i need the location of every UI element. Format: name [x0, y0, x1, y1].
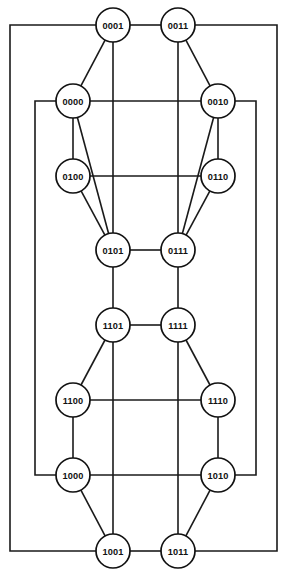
graph-node-0100[interactable]: 0100 — [56, 159, 90, 193]
graph-node-1001[interactable]: 1001 — [96, 534, 130, 568]
graph-node-1000[interactable]: 1000 — [56, 458, 90, 492]
wrap-edge-0000-1000 — [35, 101, 56, 475]
node-label-0101: 0101 — [103, 246, 124, 256]
node-label-0111: 0111 — [168, 246, 188, 256]
graph-node-0110[interactable]: 0110 — [201, 159, 235, 193]
graph-node-0101[interactable]: 0101 — [96, 233, 130, 267]
node-label-1100: 1100 — [63, 396, 83, 406]
node-label-0011: 0011 — [168, 21, 188, 31]
node-label-1011: 1011 — [168, 547, 188, 557]
node-label-0100: 0100 — [63, 172, 84, 182]
hypercube-diagram: 0001001100000010010001100101011111011111… — [0, 0, 287, 575]
edge-1010-1011 — [186, 490, 210, 536]
node-label-1000: 1000 — [63, 471, 84, 481]
node-label-1010: 1010 — [208, 471, 229, 481]
edge-1111-1110 — [186, 340, 210, 385]
wrap-edges-group — [10, 25, 277, 551]
node-label-1101: 1101 — [103, 321, 123, 331]
node-label-1110: 1110 — [208, 396, 228, 406]
edge-1101-1100 — [81, 340, 105, 385]
graph-node-0001[interactable]: 0001 — [96, 8, 130, 42]
graph-node-1010[interactable]: 1010 — [201, 458, 235, 492]
graph-node-0010[interactable]: 0010 — [201, 84, 235, 118]
graph-node-1111[interactable]: 1111 — [161, 308, 195, 342]
node-label-0000: 0000 — [63, 97, 84, 107]
graph-node-0000[interactable]: 0000 — [56, 84, 90, 118]
edge-0100-0101 — [81, 191, 105, 235]
graph-node-1100[interactable]: 1100 — [56, 383, 90, 417]
node-label-0001: 0001 — [103, 21, 124, 31]
node-label-0010: 0010 — [208, 97, 229, 107]
node-label-0110: 0110 — [208, 172, 228, 182]
node-label-1001: 1001 — [103, 547, 124, 557]
edge-0011-0010 — [186, 40, 210, 86]
edge-0001-0000 — [81, 40, 105, 86]
wrap-edge-0010-1010 — [235, 101, 256, 475]
edges-group — [73, 25, 218, 551]
graph-node-1110[interactable]: 1110 — [201, 383, 235, 417]
graph-canvas: 0001001100000010010001100101011111011111… — [0, 0, 287, 575]
graph-node-0011[interactable]: 0011 — [161, 8, 195, 42]
graph-node-1011[interactable]: 1011 — [161, 534, 195, 568]
graph-node-0111[interactable]: 0111 — [161, 233, 195, 267]
graph-node-1101[interactable]: 1101 — [96, 308, 130, 342]
node-label-1111: 1111 — [168, 321, 187, 331]
edge-1000-1001 — [81, 490, 105, 536]
edge-0110-0111 — [186, 191, 210, 235]
nodes-group: 0001001100000010010001100101011111011111… — [56, 8, 235, 568]
